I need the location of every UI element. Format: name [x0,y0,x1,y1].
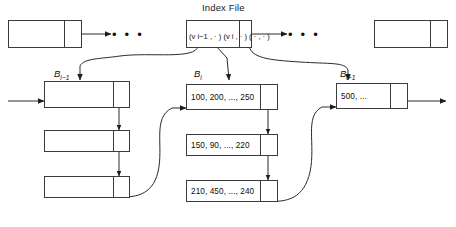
bucket-current-label: Bi [194,68,202,81]
block-prev-3[interactable] [44,176,130,198]
ellipsis-right: • • • [288,28,320,41]
bucket-next-label-sub: i+1 [346,74,355,81]
block-current-3[interactable]: 210, 450, ..., 240 [186,180,278,202]
bucket-prev-label: Bi−1 [54,68,69,81]
block-next-1-divider [390,84,391,108]
block-prev-1[interactable] [44,81,130,108]
page-title: Index File [202,2,245,13]
block-next-1[interactable]: 500, ... [336,83,408,109]
block-current-3-values: 210, 450, ..., 240 [191,187,254,196]
index-entries-text: (v i−1 , · ) (v i , · ) ( · , · ) [189,32,270,41]
ellipsis-left: • • • [112,28,144,41]
bucket-next-label: Bi+1 [340,68,355,81]
bucket-current-label-sub: i [200,74,201,81]
index-leaf-left-divider [64,21,65,47]
curve-index-to-bucket-prev [80,46,198,80]
block-current-1-values: 100, 200, ..., 250 [191,93,254,102]
index-leaf-right[interactable] [374,20,448,48]
block-prev-1-divider [113,82,114,107]
block-prev-2[interactable] [44,130,130,152]
block-prev-3-divider [113,177,114,197]
diagram-canvas: Index File • • • (v i−1 , · ) (v i , · )… [0,0,456,227]
block-next-1-values: 500, ... [341,92,367,101]
bucket-prev-label-sub: i−1 [60,74,69,81]
curve-index-to-bucket-current [216,46,229,80]
block-current-2[interactable]: 150, 90, ..., 220 [186,134,278,156]
curve-index-to-bucket-next [249,46,348,80]
block-current-3-divider [260,181,261,201]
block-current-1-divider [260,85,261,109]
block-current-1[interactable]: 100, 200, ..., 250 [186,84,278,110]
block-current-2-divider [260,135,261,155]
block-current-2-values: 150, 90, ..., 220 [191,141,250,150]
block-prev-2-divider [113,131,114,151]
index-leaf-left[interactable] [8,20,82,48]
index-leaf-right-divider [430,21,431,47]
